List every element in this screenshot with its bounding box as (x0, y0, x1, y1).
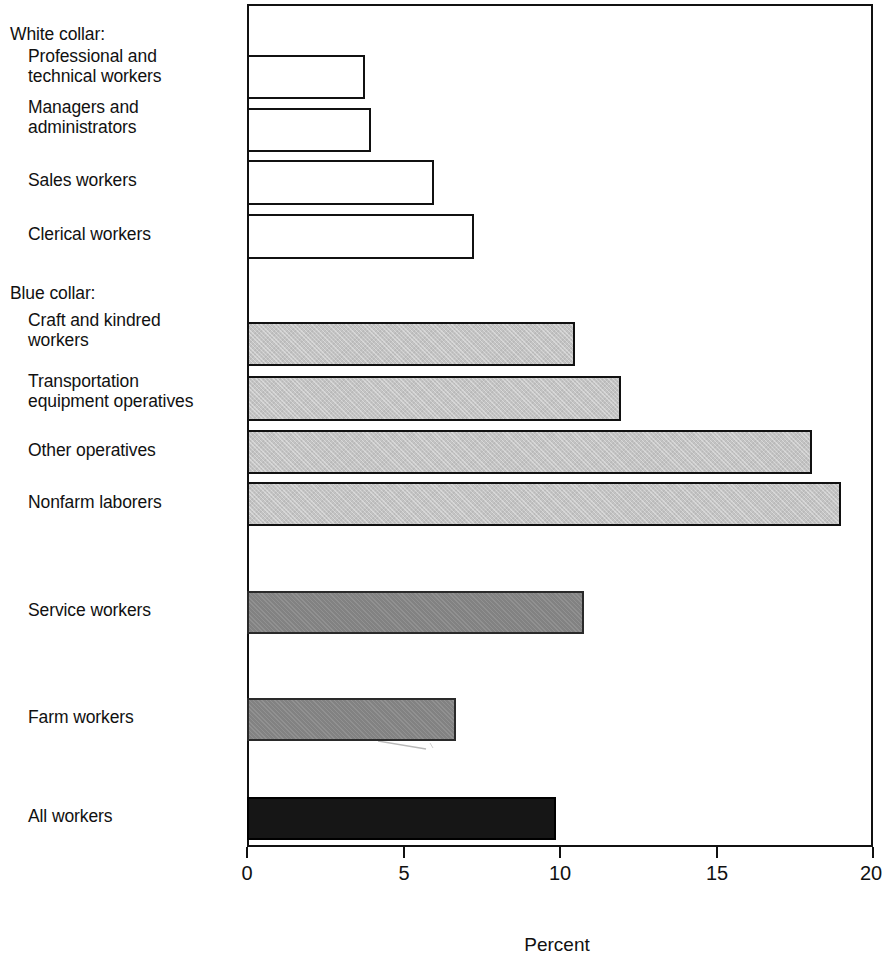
category-label-nonfarm-laborers: Nonfarm laborers (28, 492, 162, 512)
tick-mark-5 (403, 847, 405, 858)
bar-sales-workers (247, 160, 434, 205)
category-label-transportation-equipment-operatives: Transportation equipment operatives (28, 371, 193, 411)
bar-craft-and-kindred-workers (247, 322, 575, 366)
category-label-managers-and-administrators: Managers and administrators (28, 97, 139, 137)
plot-area (247, 4, 873, 847)
bar-nonfarm-laborers (247, 482, 841, 526)
bar-service-workers (247, 591, 584, 634)
tick-label-10: 10 (549, 862, 571, 884)
category-label-farm-workers: Farm workers (28, 707, 134, 727)
tick-mark-0 (246, 847, 248, 858)
tick-mark-15 (716, 847, 718, 858)
category-label-professional-and-technical-workers: Professional and technical workers (28, 46, 162, 86)
x-axis-title: Percent (524, 934, 589, 956)
tick-mark-20 (872, 847, 874, 858)
bar-clerical-workers (247, 214, 474, 259)
bar-professional-and-technical-workers (247, 55, 365, 99)
tick-mark-10 (559, 847, 561, 858)
category-label-sales-workers: Sales workers (28, 170, 137, 190)
category-label-craft-and-kindred-workers: Craft and kindred workers (28, 310, 161, 350)
bar-managers-and-administrators (247, 108, 371, 152)
category-label-clerical-workers: Clerical workers (28, 224, 151, 244)
tick-label-0: 0 (241, 862, 252, 884)
group-heading-white-collar: White collar: (10, 24, 105, 44)
group-heading-blue-collar: Blue collar: (10, 283, 95, 303)
category-label-service-workers: Service workers (28, 600, 151, 620)
bar-all-workers (247, 797, 556, 840)
bar-farm-workers (247, 698, 456, 741)
bar-transportation-equipment-operatives (247, 376, 621, 421)
tick-label-5: 5 (398, 862, 409, 884)
tick-label-20: 20 (860, 862, 882, 884)
category-label-all-workers: All workers (28, 806, 112, 826)
tick-label-15: 15 (706, 862, 728, 884)
category-label-other-operatives: Other operatives (28, 440, 156, 460)
bar-chart-figure: White collar: Professional and technical… (0, 0, 887, 960)
bar-other-operatives (247, 430, 812, 474)
